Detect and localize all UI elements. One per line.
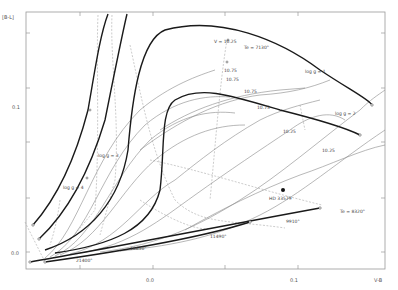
plot-frame bbox=[26, 12, 385, 269]
label-v-6: 10.25 bbox=[283, 129, 296, 134]
label-log-g-4: log g = 4 bbox=[63, 185, 84, 190]
thin-curves bbox=[45, 70, 385, 258]
x-tick-0.1: 0.1 bbox=[290, 277, 298, 283]
label-v-4: 10.75 bbox=[244, 89, 257, 94]
label-v-2: 10.75 bbox=[224, 68, 237, 73]
label-hd33579: HD 33579 bbox=[269, 196, 292, 201]
star-point-hd33579 bbox=[281, 188, 285, 192]
x-tick-0.0: 0.0 bbox=[146, 277, 154, 283]
label-v-7: 10.25 bbox=[322, 148, 335, 153]
label-te-7130: Te = 7130° bbox=[243, 45, 269, 50]
label-te-16650: 16650° bbox=[130, 246, 147, 251]
label-te-21400: 21400° bbox=[76, 258, 93, 263]
label-v-3: 10.75 bbox=[226, 77, 239, 82]
label-te-11490: 11490° bbox=[210, 234, 227, 239]
y-axis-label: [B-L] bbox=[2, 14, 14, 20]
label-log-g-1: log g = 1 bbox=[305, 69, 326, 74]
label-te-9910: 9910° bbox=[286, 219, 300, 224]
two-color-diagram: [B-L] 0.1 0.0 0.0 0.1 V-B bbox=[0, 0, 398, 290]
axis-ticks bbox=[26, 12, 385, 269]
label-log-g-2: log g = 2 bbox=[335, 111, 356, 116]
label-v-1: V = 10.25 bbox=[214, 39, 237, 44]
x-axis-label: V-B bbox=[374, 277, 383, 283]
label-v-5: 10.75 bbox=[257, 105, 270, 110]
y-tick-0.0: 0.0 bbox=[11, 250, 19, 256]
label-log-g-3: log g = 3 bbox=[98, 153, 119, 158]
y-tick-0.1: 0.1 bbox=[12, 104, 20, 110]
label-te-8320: Te = 8320° bbox=[339, 209, 365, 214]
